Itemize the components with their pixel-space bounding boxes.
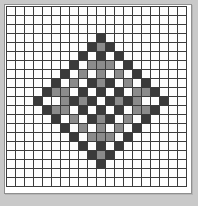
pixel-cell[interactable] bbox=[124, 115, 133, 124]
pixel-cell[interactable] bbox=[43, 43, 52, 52]
pixel-cell[interactable] bbox=[70, 61, 79, 70]
pixel-cell[interactable] bbox=[16, 151, 25, 160]
pixel-cell[interactable] bbox=[79, 133, 88, 142]
pixel-cell[interactable] bbox=[7, 124, 16, 133]
pixel-cell[interactable] bbox=[133, 61, 142, 70]
pixel-cell[interactable] bbox=[7, 52, 16, 61]
pixel-cell[interactable] bbox=[169, 142, 178, 151]
pixel-cell[interactable] bbox=[16, 169, 25, 178]
pixel-cell[interactable] bbox=[106, 97, 115, 106]
pixel-cell[interactable] bbox=[25, 97, 34, 106]
pixel-cell[interactable] bbox=[16, 142, 25, 151]
pixel-cell[interactable] bbox=[7, 34, 16, 43]
pixel-cell[interactable] bbox=[106, 34, 115, 43]
pixel-cell[interactable] bbox=[124, 160, 133, 169]
pixel-cell[interactable] bbox=[79, 160, 88, 169]
pixel-cell[interactable] bbox=[97, 97, 106, 106]
pixel-cell[interactable] bbox=[160, 124, 169, 133]
pixel-cell[interactable] bbox=[61, 106, 70, 115]
pixel-cell[interactable] bbox=[79, 88, 88, 97]
pixel-cell[interactable] bbox=[115, 7, 124, 16]
pixel-cell[interactable] bbox=[34, 133, 43, 142]
pixel-cell[interactable] bbox=[25, 25, 34, 34]
pixel-cell[interactable] bbox=[142, 97, 151, 106]
pixel-cell[interactable] bbox=[178, 43, 187, 52]
pixel-cell[interactable] bbox=[160, 7, 169, 16]
pixel-cell[interactable] bbox=[79, 151, 88, 160]
pixel-cell[interactable] bbox=[169, 88, 178, 97]
pixel-cell[interactable] bbox=[97, 142, 106, 151]
pixel-cell[interactable] bbox=[178, 142, 187, 151]
pixel-cell[interactable] bbox=[133, 16, 142, 25]
pixel-cell[interactable] bbox=[178, 151, 187, 160]
pixel-cell[interactable] bbox=[151, 97, 160, 106]
pixel-cell[interactable] bbox=[79, 178, 88, 187]
pixel-cell[interactable] bbox=[106, 160, 115, 169]
pixel-cell[interactable] bbox=[52, 79, 61, 88]
pixel-cell[interactable] bbox=[106, 124, 115, 133]
pixel-cell[interactable] bbox=[160, 151, 169, 160]
pixel-cell[interactable] bbox=[16, 43, 25, 52]
pixel-cell[interactable] bbox=[115, 151, 124, 160]
pixel-cell[interactable] bbox=[34, 16, 43, 25]
pixel-cell[interactable] bbox=[160, 88, 169, 97]
pixel-cell[interactable] bbox=[124, 88, 133, 97]
pixel-cell[interactable] bbox=[43, 70, 52, 79]
pixel-cell[interactable] bbox=[115, 25, 124, 34]
pixel-cell[interactable] bbox=[25, 115, 34, 124]
pixel-cell[interactable] bbox=[43, 52, 52, 61]
pixel-cell[interactable] bbox=[169, 160, 178, 169]
pixel-cell[interactable] bbox=[16, 106, 25, 115]
pixel-cell[interactable] bbox=[178, 124, 187, 133]
pixel-cell[interactable] bbox=[25, 79, 34, 88]
pixel-grid[interactable] bbox=[6, 6, 187, 187]
pixel-cell[interactable] bbox=[88, 97, 97, 106]
pixel-cell[interactable] bbox=[25, 106, 34, 115]
pixel-cell[interactable] bbox=[34, 7, 43, 16]
pixel-cell[interactable] bbox=[43, 97, 52, 106]
pixel-cell[interactable] bbox=[133, 70, 142, 79]
pixel-cell[interactable] bbox=[70, 52, 79, 61]
pixel-cell[interactable] bbox=[88, 43, 97, 52]
pixel-cell[interactable] bbox=[61, 52, 70, 61]
pixel-cell[interactable] bbox=[169, 79, 178, 88]
pixel-cell[interactable] bbox=[43, 169, 52, 178]
pixel-cell[interactable] bbox=[7, 142, 16, 151]
pixel-cell[interactable] bbox=[133, 106, 142, 115]
pixel-cell[interactable] bbox=[16, 70, 25, 79]
pixel-cell[interactable] bbox=[7, 160, 16, 169]
pixel-cell[interactable] bbox=[106, 106, 115, 115]
pixel-cell[interactable] bbox=[115, 34, 124, 43]
pixel-cell[interactable] bbox=[169, 61, 178, 70]
pixel-cell[interactable] bbox=[34, 115, 43, 124]
pixel-cell[interactable] bbox=[7, 133, 16, 142]
pixel-cell[interactable] bbox=[70, 142, 79, 151]
pixel-cell[interactable] bbox=[52, 106, 61, 115]
pixel-cell[interactable] bbox=[178, 61, 187, 70]
pixel-cell[interactable] bbox=[133, 160, 142, 169]
pixel-cell[interactable] bbox=[133, 7, 142, 16]
pixel-cell[interactable] bbox=[142, 142, 151, 151]
pixel-cell[interactable] bbox=[124, 43, 133, 52]
pixel-cell[interactable] bbox=[70, 133, 79, 142]
pixel-cell[interactable] bbox=[88, 70, 97, 79]
pixel-cell[interactable] bbox=[16, 52, 25, 61]
pixel-cell[interactable] bbox=[25, 43, 34, 52]
pixel-cell[interactable] bbox=[106, 61, 115, 70]
pixel-cell[interactable] bbox=[52, 43, 61, 52]
pixel-cell[interactable] bbox=[88, 34, 97, 43]
pixel-cell[interactable] bbox=[133, 133, 142, 142]
pixel-cell[interactable] bbox=[88, 160, 97, 169]
pixel-cell[interactable] bbox=[70, 88, 79, 97]
pixel-cell[interactable] bbox=[79, 169, 88, 178]
pixel-cell[interactable] bbox=[124, 52, 133, 61]
pixel-cell[interactable] bbox=[133, 151, 142, 160]
pixel-cell[interactable] bbox=[142, 43, 151, 52]
pixel-cell[interactable] bbox=[142, 169, 151, 178]
pixel-cell[interactable] bbox=[25, 133, 34, 142]
pixel-cell[interactable] bbox=[142, 25, 151, 34]
pixel-cell[interactable] bbox=[88, 61, 97, 70]
pixel-cell[interactable] bbox=[160, 178, 169, 187]
pixel-cell[interactable] bbox=[79, 61, 88, 70]
pixel-cell[interactable] bbox=[106, 7, 115, 16]
